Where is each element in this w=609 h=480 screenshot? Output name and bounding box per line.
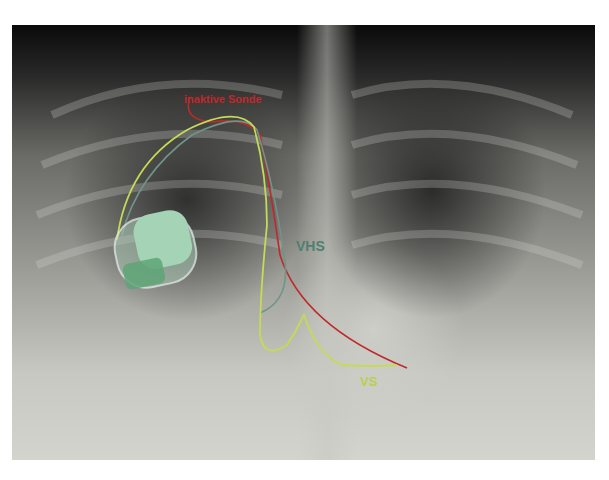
chest-xray-image: inaktive Sonde VHS VS: [12, 25, 595, 460]
label-atrial-lead: VHS: [296, 238, 325, 254]
label-ventricular-lead: VS: [360, 374, 377, 389]
label-inactive-lead: inaktive Sonde: [184, 93, 262, 105]
pacemaker-device: [109, 206, 202, 293]
